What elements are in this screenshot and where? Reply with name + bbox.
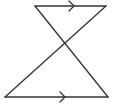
parallel-lines-diagram [0, 0, 114, 107]
transversal-left-to-right [35, 6, 108, 97]
transversal-right-to-left [5, 6, 106, 97]
segments-group [5, 6, 108, 97]
